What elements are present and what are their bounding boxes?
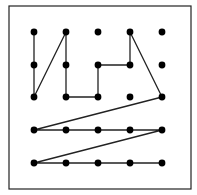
grid-dot bbox=[31, 29, 38, 36]
grid-dot bbox=[95, 160, 102, 167]
grid-dot bbox=[95, 127, 102, 134]
grid-dot bbox=[127, 160, 134, 167]
grid-dot bbox=[63, 127, 70, 134]
grid-dot bbox=[95, 94, 102, 101]
grid-dot bbox=[159, 62, 166, 69]
grid-dot bbox=[159, 160, 166, 167]
grid-dot bbox=[127, 62, 134, 69]
grid-dot bbox=[63, 160, 70, 167]
grid-dot bbox=[127, 127, 134, 134]
grid-dot bbox=[31, 62, 38, 69]
grid-dot bbox=[31, 160, 38, 167]
dot-grid-diagram bbox=[0, 0, 197, 195]
grid-dot bbox=[63, 94, 70, 101]
grid-dot bbox=[127, 29, 134, 36]
grid-dot bbox=[159, 94, 166, 101]
grid-dot bbox=[31, 94, 38, 101]
grid-dot bbox=[63, 29, 70, 36]
grid-dot bbox=[159, 127, 166, 134]
grid-dot bbox=[63, 62, 70, 69]
grid-dot bbox=[127, 94, 134, 101]
grid-dot bbox=[95, 29, 102, 36]
grid-dot bbox=[31, 127, 38, 134]
grid-dot bbox=[95, 62, 102, 69]
grid-dot bbox=[159, 29, 166, 36]
